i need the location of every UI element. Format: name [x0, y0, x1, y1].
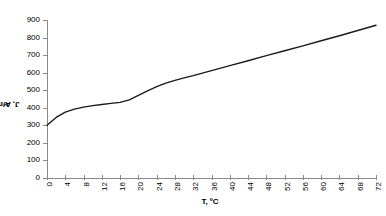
y-axis-title: J, A/m2 [2, 60, 14, 150]
x-axis-title: T, ºC [170, 197, 250, 206]
y-axis-title-text: J, A/m [0, 101, 20, 110]
data-series-line [0, 0, 386, 216]
chart-container: 0100200300400500600700800900 04812162024… [0, 0, 386, 216]
